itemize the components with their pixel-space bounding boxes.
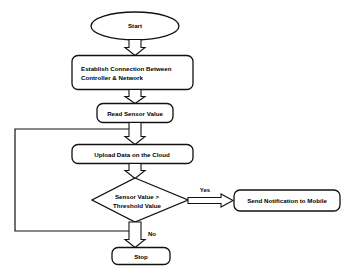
arrow-upload-to-decision xyxy=(125,164,145,179)
node-establish-connection-label-line2: Controller & Network xyxy=(81,74,143,81)
edge-label-yes: Yes xyxy=(200,187,211,193)
flowchart-svg: Start Establish Connection Between Contr… xyxy=(0,0,352,276)
flowchart-canvas: Start Establish Connection Between Contr… xyxy=(0,0,352,276)
node-start-label: Start xyxy=(128,22,142,29)
arrow-start-to-establish xyxy=(125,40,145,56)
node-decision[interactable] xyxy=(92,178,188,222)
node-send-notification-label: Send Notification to Mobile xyxy=(247,197,327,204)
arrow-decision-no xyxy=(125,222,145,248)
arrow-establish-to-read xyxy=(125,90,145,104)
node-read-sensor-value-label: Read Sensor Value xyxy=(107,110,163,117)
node-decision-label-line2: Threshold Value xyxy=(113,202,161,209)
node-establish-connection[interactable] xyxy=(72,56,193,90)
node-decision-label-line1: Sensor Value > xyxy=(115,193,160,200)
arrow-read-to-upload xyxy=(125,123,145,145)
node-upload-data-label: Upload Data on the Cloud xyxy=(94,151,170,158)
node-establish-connection-label-line1: Establish Connection Between xyxy=(81,65,172,72)
arrow-decision-yes xyxy=(188,194,233,207)
node-stop-label: Stop xyxy=(134,253,148,260)
edge-label-no: No xyxy=(148,231,156,237)
